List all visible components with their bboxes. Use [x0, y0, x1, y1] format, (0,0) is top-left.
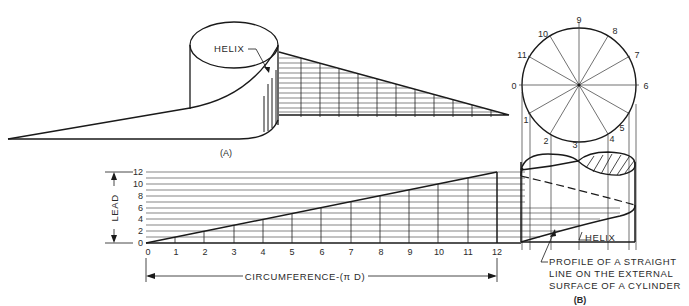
circumference-tick-labels: 0 1 2 3 4 5 6 7 8 9 10 11 12	[145, 247, 502, 257]
figure-a-cylinder	[8, 22, 278, 139]
svg-text:5: 5	[289, 247, 294, 257]
svg-text:8: 8	[612, 26, 617, 36]
svg-text:5: 5	[619, 123, 624, 133]
svg-text:1: 1	[523, 115, 528, 125]
circumference-label: CIRCUMFERENCE-(π D)	[245, 271, 365, 282]
svg-text:3: 3	[231, 247, 236, 257]
svg-text:2: 2	[138, 226, 143, 236]
profile-label-line-3: SURFACE OF A CYLINDER	[549, 280, 681, 291]
svg-text:10: 10	[538, 29, 548, 39]
figure-b: 0 1 2 3 4 5 6 7 8 9 10 11	[511, 15, 680, 305]
figure-a-wedge-grid	[279, 52, 509, 117]
svg-text:7: 7	[634, 50, 639, 60]
arrow-up-icon	[111, 172, 117, 180]
svg-text:6: 6	[138, 203, 143, 213]
lead-tick-labels: 0 2 4 6 8 10 12	[133, 167, 143, 248]
svg-text:4: 4	[260, 247, 265, 257]
svg-text:0: 0	[138, 238, 143, 248]
arrowhead-icon	[264, 67, 270, 73]
figure-a-caption: (A)	[220, 148, 232, 158]
top-view-circle: 0 1 2 3 4 5 6 7 8 9 10 11	[511, 15, 648, 250]
svg-text:2: 2	[543, 136, 548, 146]
visible-helix	[521, 205, 635, 242]
svg-text:0: 0	[145, 247, 150, 257]
arrow-right-icon	[488, 273, 497, 279]
helix-diagram: HELIX (A)	[0, 0, 689, 306]
svg-text:10: 10	[133, 179, 143, 189]
svg-text:8: 8	[378, 247, 383, 257]
profile-label-line-1: PROFILE OF A STRAIGHT	[549, 256, 677, 267]
figure-a-helix-label: HELIX	[214, 43, 245, 54]
svg-text:7: 7	[348, 247, 353, 257]
svg-text:12: 12	[133, 167, 143, 177]
figure-a-cylinder-wrap: HELIX (A)	[8, 22, 509, 158]
hidden-helix-dashed	[521, 176, 635, 205]
circumference-dimension: CIRCUMFERENCE-(π D)	[146, 258, 497, 282]
svg-text:6: 6	[319, 247, 324, 257]
svg-text:2: 2	[202, 247, 207, 257]
svg-text:11: 11	[463, 247, 472, 257]
svg-text:4: 4	[609, 134, 614, 144]
lead-dimension: LEAD	[105, 172, 133, 243]
svg-text:8: 8	[138, 191, 143, 201]
figure-b-caption: (B)	[574, 295, 587, 305]
lead-grid-lines	[146, 172, 620, 237]
arrow-down-icon	[111, 235, 117, 243]
svg-text:9: 9	[576, 15, 581, 25]
svg-text:9: 9	[407, 247, 412, 257]
profile-label-line-2: LINE ON THE EXTERNAL	[549, 268, 673, 279]
lead-label: LEAD	[109, 194, 120, 221]
svg-text:0: 0	[511, 81, 516, 91]
developed-helix-line	[146, 172, 497, 243]
svg-text:11: 11	[517, 50, 526, 60]
svg-text:4: 4	[138, 214, 143, 224]
arrow-left-icon	[146, 273, 155, 279]
figure-b-helix-label: HELIX	[585, 232, 616, 243]
development-chart: 0 2 4 6 8 10 12 LEAD 0 1 2 3 4 5 6 7	[105, 167, 620, 282]
hatched-section	[578, 161, 635, 175]
svg-text:3: 3	[572, 140, 577, 150]
svg-text:1: 1	[173, 247, 178, 257]
svg-text:10: 10	[434, 247, 444, 257]
svg-text:12: 12	[492, 247, 502, 257]
elevation-cylinder: HELIX PROFILE OF A STRAIGHT LINE ON THE …	[521, 152, 681, 291]
svg-text:6: 6	[643, 81, 648, 91]
